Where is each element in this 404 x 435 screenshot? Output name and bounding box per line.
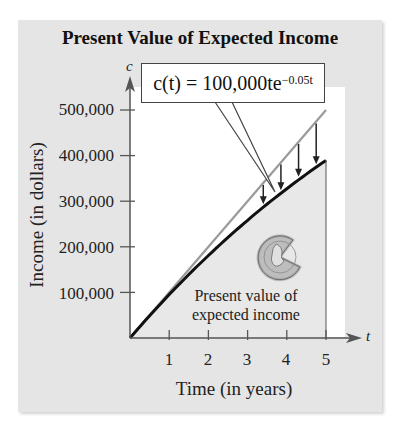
shaded-region-label: Present value of expected income <box>176 286 316 324</box>
x-axis-letter: t <box>366 328 370 345</box>
x-tick-label: 4 <box>276 350 296 370</box>
y-tick-label: 500,000 <box>24 100 114 120</box>
formula-text: c(t) = 100,000te <box>153 72 281 95</box>
y-axis-label: Income (in dollars) <box>26 142 48 288</box>
y-axis-letter: c <box>126 58 133 75</box>
shaded-region-label-line2: expected income <box>176 305 316 324</box>
formula-exponent: −0.05t <box>282 73 313 88</box>
formula-callout: c(t) = 100,000te−0.05t <box>141 63 325 103</box>
x-tick-label: 1 <box>159 350 179 370</box>
x-tick-label: 5 <box>316 350 336 370</box>
x-tick-label: 3 <box>237 350 257 370</box>
x-tick-label: 2 <box>198 350 218 370</box>
shaded-region-label-line1: Present value of <box>176 286 316 305</box>
x-axis-label: Time (in years) <box>130 378 338 400</box>
